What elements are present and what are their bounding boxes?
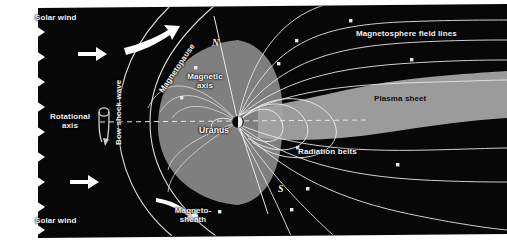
- magnetosphere-figure: Solar wind Rotational axis Bow shock wav…: [0, 0, 507, 247]
- magnetosphere-svg: [0, 0, 507, 247]
- diagram-canvas: [0, 0, 507, 247]
- planet-sphere-icon: [232, 116, 244, 128]
